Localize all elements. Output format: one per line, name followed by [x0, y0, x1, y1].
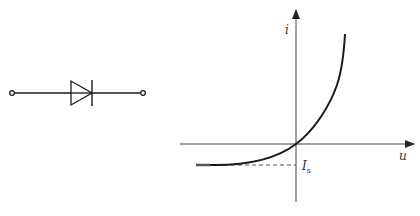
y-axis-label: i — [285, 23, 289, 37]
terminal-left-icon — [10, 91, 15, 96]
iv-chart: i u Is — [180, 10, 414, 202]
diagram-canvas: i u Is — [0, 0, 420, 216]
saturation-label-sub: s — [307, 166, 311, 175]
iv-curve — [196, 34, 345, 165]
diode-symbol — [10, 80, 146, 106]
x-axis-label: u — [399, 149, 407, 163]
terminal-right-icon — [141, 91, 146, 96]
saturation-current-label: Is — [301, 159, 311, 175]
